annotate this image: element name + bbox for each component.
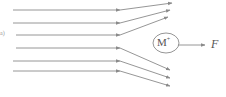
upper-beam-1: [13, 3, 172, 10]
lower-beam-1: [16, 48, 170, 70]
ion-symbol: M: [157, 36, 167, 48]
ion-deflection-diagram: [0, 0, 226, 97]
upper-beam-3: [16, 17, 168, 35]
lower-beam-3: [13, 71, 170, 86]
upper-beam-2: [13, 10, 170, 23]
ion-label: M+: [157, 36, 170, 48]
fragment-label: F: [211, 37, 218, 52]
ion-charge: +: [167, 36, 170, 42]
lower-beam-2: [13, 61, 170, 78]
